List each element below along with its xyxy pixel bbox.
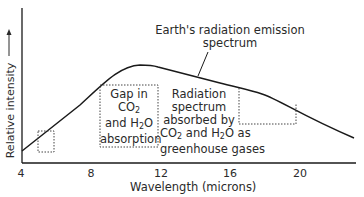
- x-tick-16: 16: [223, 167, 237, 180]
- x-tick-20: 20: [293, 167, 307, 180]
- absorbed-label: Radiation spectrum absorbed by CO2 and H…: [160, 88, 238, 156]
- emission-spectrum-label: Earth's radiation emission spectrum: [150, 24, 310, 50]
- absorbed-label-line5: greenhouse gases: [160, 143, 238, 156]
- x-tick-12: 12: [154, 167, 168, 180]
- annotation-leader: [198, 52, 208, 76]
- gap-label-line2: CO2: [100, 101, 158, 117]
- x-tick-8: 8: [88, 167, 95, 180]
- y-arrow-head-icon: [7, 29, 12, 35]
- x-axis-label: Wavelength (microns): [130, 181, 250, 194]
- emission-label-line2: spectrum: [150, 37, 310, 50]
- co-text: CO: [160, 126, 177, 140]
- x-tick-4: 4: [18, 167, 25, 180]
- and-h-text: and H: [182, 126, 220, 140]
- gap-label-line4: absorption: [100, 133, 158, 146]
- and-h-text: and H: [105, 116, 139, 130]
- co-text: CO: [118, 100, 135, 114]
- gap-label-line3: and H2O: [100, 117, 158, 133]
- y-axis-label: Relative intensity: [4, 56, 17, 166]
- absorbed-label-line4: CO2 and H2O as: [160, 127, 238, 143]
- o-as-text: O as: [225, 126, 251, 140]
- gap-label: Gap in CO2 and H2O absorption: [100, 88, 158, 146]
- subscript: 2: [135, 106, 140, 115]
- o-text: O: [144, 116, 153, 130]
- absorption-box-small: [38, 131, 54, 152]
